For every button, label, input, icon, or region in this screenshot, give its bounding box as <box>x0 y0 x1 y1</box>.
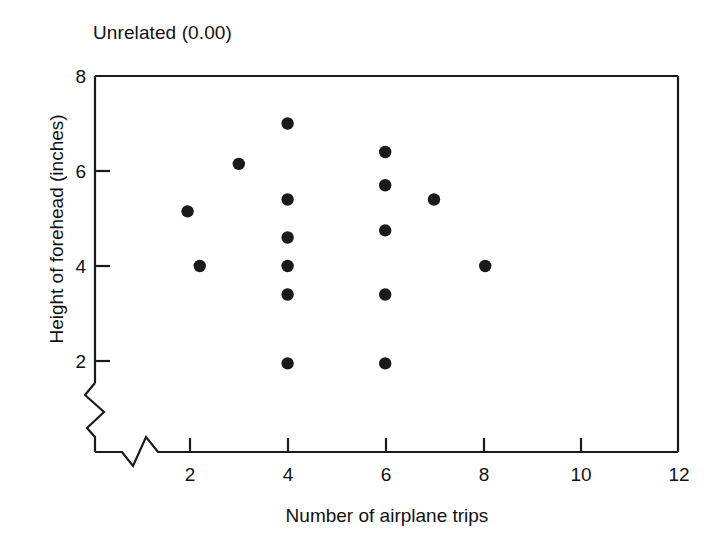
data-points-layer <box>181 117 491 369</box>
y-axis-title: Height of forehead (inches) <box>46 64 68 394</box>
x-axis-break-zigzag <box>95 437 678 466</box>
data-point <box>281 231 293 243</box>
data-point <box>281 193 293 205</box>
data-point <box>379 224 391 236</box>
y-axis-break-zigzag <box>85 383 104 452</box>
x-axis-title: Number of airplane trips <box>95 505 679 527</box>
data-point <box>281 357 293 369</box>
data-point <box>181 205 193 217</box>
x-tick-label-6: 6 <box>369 464 403 486</box>
data-point <box>233 158 245 170</box>
data-point <box>428 193 440 205</box>
plot-area-svg <box>0 0 715 548</box>
data-point <box>379 179 391 191</box>
x-tick-label-2: 2 <box>173 464 207 486</box>
y-tick-label-8: 8 <box>58 66 86 88</box>
data-point <box>379 357 391 369</box>
data-point <box>194 260 206 272</box>
y-axis-ticks <box>95 171 110 361</box>
chart-title: Unrelated (0.00) <box>93 22 232 44</box>
data-point <box>379 288 391 300</box>
x-tick-label-10: 10 <box>564 464 598 486</box>
x-tick-label-12: 12 <box>662 464 696 486</box>
scatter-plot-figure: Unrelated (0.00) Height of forehead (inc… <box>0 0 715 548</box>
x-axis-ticks <box>190 438 581 452</box>
y-tick-label-2: 2 <box>58 351 86 373</box>
data-point <box>281 288 293 300</box>
data-point <box>281 260 293 272</box>
data-point <box>281 117 293 129</box>
y-tick-label-6: 6 <box>58 161 86 183</box>
data-point <box>479 260 491 272</box>
axis-frame <box>85 76 678 466</box>
y-tick-label-4: 4 <box>58 256 86 278</box>
x-tick-label-8: 8 <box>467 464 501 486</box>
data-point <box>379 146 391 158</box>
x-tick-label-4: 4 <box>271 464 305 486</box>
